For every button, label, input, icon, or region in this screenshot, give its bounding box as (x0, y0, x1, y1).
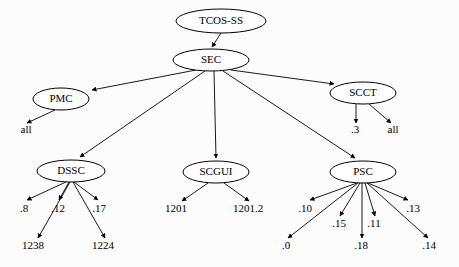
tree-node-dssc[interactable]: DSSC (37, 160, 105, 182)
leaf-label-dssc-12: .12 (51, 202, 65, 214)
leaf-label-psc-13: .13 (406, 202, 420, 214)
tree-node-scgui[interactable]: SCGUI (183, 161, 249, 183)
leaf-label-dssc-17: .17 (92, 202, 106, 214)
tree-node-pmc[interactable]: PMC (33, 88, 89, 110)
leaf-label-scgui-1201-2: 1201.2 (233, 202, 263, 214)
leaves-layer: all.3all.8.12.171238122412011201.2.10.15… (20, 123, 437, 251)
leaf-label-pmc-all: all (21, 123, 32, 135)
tree-edge-psc-to-psc-13 (368, 183, 408, 200)
tree-edge-psc-to-psc-10 (310, 183, 357, 200)
leaf-label-psc-15: .15 (332, 217, 346, 229)
leaf-label-psc-0: .0 (282, 239, 291, 251)
tree-diagram-canvas: TCOS-SSSECPMCSCCTDSSCSCGUIPSC all.3all.8… (0, 0, 459, 267)
node-label-scct: SCCT (349, 86, 377, 98)
leaf-label-psc-14: .14 (422, 239, 436, 251)
tree-edge-sec-to-psc (223, 71, 355, 158)
leaf-label-scct-all: all (388, 123, 399, 135)
tree-edge-scct-to-scct-all (369, 104, 391, 123)
leaf-label-psc-18: .18 (354, 239, 368, 251)
tree-node-sec[interactable]: SEC (173, 49, 249, 71)
tree-edge-dssc-to-dssc-17 (74, 182, 98, 200)
tree-edge-sec-to-scgui (214, 71, 216, 158)
tree-edge-tcos-to-sec (212, 33, 221, 47)
node-label-pmc: PMC (49, 92, 72, 104)
leaf-label-dssc-1238: 1238 (22, 239, 45, 251)
tree-edge-pmc-to-pmc-all (27, 110, 55, 123)
tree-node-tcos[interactable]: TCOS-SS (176, 9, 266, 33)
tree-edge-scgui-to-scgui-1201 (182, 183, 208, 201)
leaf-label-dssc-8: .8 (20, 202, 29, 214)
leaf-label-psc-10: .10 (298, 202, 312, 214)
tree-edge-sec-to-dssc (80, 71, 205, 157)
tree-node-scct[interactable]: SCCT (330, 82, 396, 104)
leaf-label-scgui-1201: 1201 (165, 202, 187, 214)
tree-edge-psc-to-psc-11 (365, 183, 375, 216)
tree-diagram: TCOS-SSSECPMCSCCTDSSCSCGUIPSC all.3all.8… (0, 0, 459, 267)
tree-edge-sec-to-scct (231, 70, 334, 84)
tree-edge-scgui-to-scgui-1201-2 (224, 183, 249, 201)
node-label-dssc: DSSC (57, 164, 85, 176)
node-label-psc: PSC (353, 165, 373, 177)
node-label-scgui: SCGUI (199, 165, 232, 177)
tree-node-psc[interactable]: PSC (330, 161, 396, 183)
tree-edge-sec-to-pmc (92, 70, 196, 90)
node-label-tcos: TCOS-SS (199, 14, 243, 26)
leaf-label-psc-11: .11 (367, 217, 380, 229)
leaf-label-scct-3: .3 (351, 123, 360, 135)
leaf-label-dssc-1224: 1224 (92, 239, 115, 251)
node-label-sec: SEC (201, 53, 221, 65)
